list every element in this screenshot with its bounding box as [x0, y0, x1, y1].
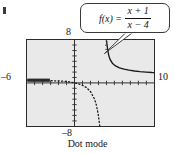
window-ymax-label: 8: [66, 27, 71, 37]
formula-lhs: f(x) =: [99, 13, 122, 24]
window-xmax-label: 10: [158, 72, 168, 82]
callout-tail: [105, 32, 134, 54]
graphing-calculator-figure: f(x) = x + 1 x − 4 8 –8 –6 10 Dot mode: [0, 0, 175, 154]
window-xmin-label: –6: [1, 72, 11, 82]
formula-fraction: x + 1 x − 4: [125, 6, 151, 30]
function-formula: f(x) = x + 1 x − 4: [80, 3, 170, 33]
window-ymin-label: –8: [62, 128, 72, 138]
figure-caption: Dot mode: [0, 139, 175, 149]
formula-numerator: x + 1: [125, 6, 150, 17]
formula-denominator: x − 4: [125, 20, 150, 31]
